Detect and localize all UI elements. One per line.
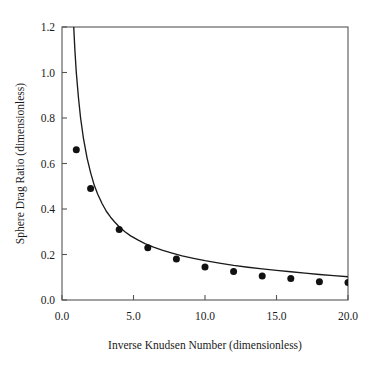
y-tick-label: 0.2 — [41, 249, 56, 261]
data-point — [259, 273, 266, 280]
data-point — [287, 275, 294, 282]
x-tick-label: 15.0 — [266, 310, 286, 322]
data-point — [202, 264, 209, 271]
data-point — [316, 278, 323, 285]
y-tick-label: 0.4 — [41, 203, 56, 215]
y-tick-label: 1.0 — [41, 67, 56, 79]
y-axis-title: Sphere Drag Ratio (dimensionless) — [14, 83, 27, 244]
data-point — [173, 256, 180, 263]
data-point — [144, 244, 151, 251]
data-point — [87, 185, 94, 192]
chart-figure: 0.0 0.2 0.4 0.6 0.8 1.0 1.2 0.0 5.0 10.0… — [0, 0, 381, 369]
x-tick-label: 5.0 — [126, 310, 141, 322]
sphere-drag-ratio-chart: 0.0 0.2 0.4 0.6 0.8 1.0 1.2 0.0 5.0 10.0… — [0, 0, 381, 369]
x-axis-title: Inverse Knudsen Number (dimensionless) — [108, 339, 302, 352]
y-tick-label: 1.2 — [41, 21, 56, 33]
y-tick-label: 0.6 — [41, 158, 56, 170]
data-point — [73, 146, 80, 153]
data-point — [230, 268, 237, 275]
x-tick-label: 0.0 — [55, 310, 70, 322]
data-point — [116, 226, 123, 233]
x-tick-label: 10.0 — [195, 310, 215, 322]
y-tick-label: 0.0 — [41, 294, 56, 306]
y-tick-label: 0.8 — [41, 112, 56, 124]
x-tick-label: 20.0 — [338, 310, 358, 322]
